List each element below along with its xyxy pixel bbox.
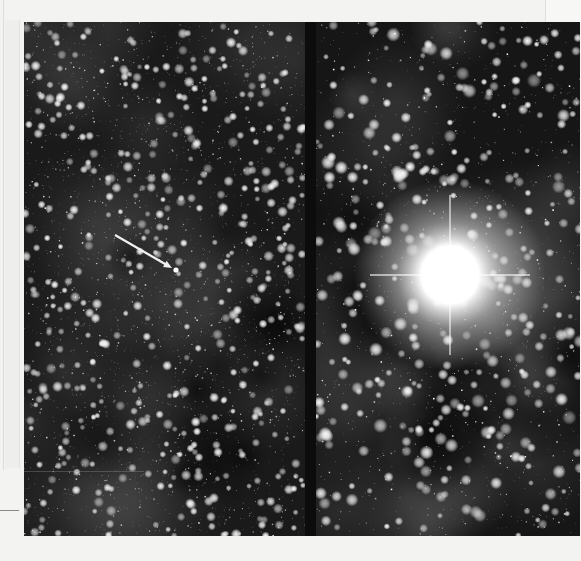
page-corner xyxy=(545,0,581,22)
star-field-after-image xyxy=(316,22,580,536)
page-rule-line xyxy=(0,510,19,511)
photo-panel-after: Star field after outburst xyxy=(316,22,580,536)
page-edge-line xyxy=(3,0,4,470)
page-margin xyxy=(5,20,20,468)
photo-panel-before: Star field before outburst xyxy=(24,22,305,536)
panel-divider xyxy=(305,22,316,536)
star-field-before-image xyxy=(24,22,305,536)
